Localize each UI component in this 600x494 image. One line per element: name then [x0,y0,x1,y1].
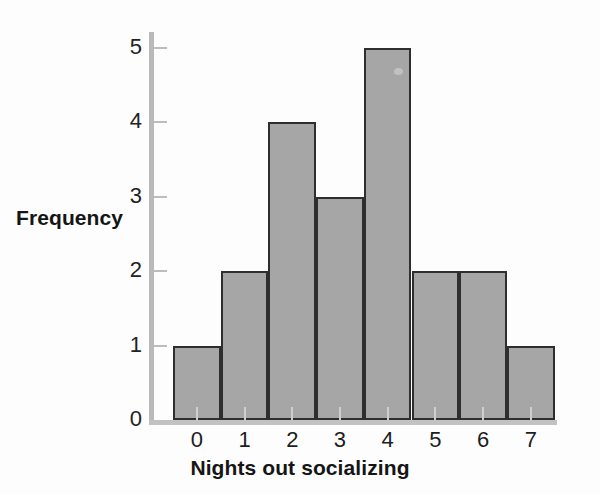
y-axis-title: Frequency [16,206,123,230]
x-axis-tick-label: 4 [364,427,412,453]
y-axis-tick-label: 2 [104,259,142,281]
x-axis-tick-label: 7 [507,427,555,453]
y-axis-tick-label-text: 3 [108,185,142,207]
x-axis-tick-label: 2 [268,427,316,453]
x-axis-center-tick [434,407,436,420]
x-axis-tick-label: 6 [459,427,507,453]
x-axis-center-tick [387,407,389,420]
y-axis-tick-label: 4 [104,110,142,132]
scan-speckle [394,68,403,75]
x-axis-tick-label: 1 [221,427,269,453]
x-axis-center-tick [196,407,198,420]
y-axis-tick-label: 5 [104,36,142,58]
y-axis-tick-label: 0 [104,408,142,430]
x-axis-tick-label: 3 [316,427,364,453]
x-axis-center-tick [291,407,293,420]
y-axis-tick [154,270,167,272]
y-axis-tick [154,196,167,198]
y-axis-tick-label: 3 [104,185,142,207]
histogram-bar [459,271,507,420]
histogram-bar [364,48,412,420]
y-axis-tick-label: 1 [104,334,142,356]
x-axis-center-tick [244,407,246,420]
histogram-bar [268,122,316,420]
x-axis-center-tick [339,407,341,420]
x-axis-title: Nights out socializing [0,456,600,480]
y-axis-tick [154,345,167,347]
y-axis-tick-label-text: 0 [108,408,142,430]
x-axis-line [149,420,557,425]
histogram-chart: 012345 Frequency Nights out socializing … [0,0,600,494]
x-axis-tick-label: 5 [411,427,459,453]
histogram-bar [316,197,364,420]
y-axis-tick-label-text: 4 [108,110,142,132]
x-axis-tick-label: 0 [173,427,221,453]
y-axis-tick-label-text: 2 [108,259,142,281]
x-axis-center-tick [530,407,532,420]
histogram-bar [221,271,269,420]
x-axis-center-tick [482,407,484,420]
y-axis-tick [154,47,167,49]
y-axis-tick-label-text: 1 [108,334,142,356]
y-axis-line [149,32,154,422]
y-axis-tick-label-text: 5 [108,36,142,58]
y-axis-tick [154,121,167,123]
histogram-bar [412,271,460,420]
bars-layer [173,40,555,420]
